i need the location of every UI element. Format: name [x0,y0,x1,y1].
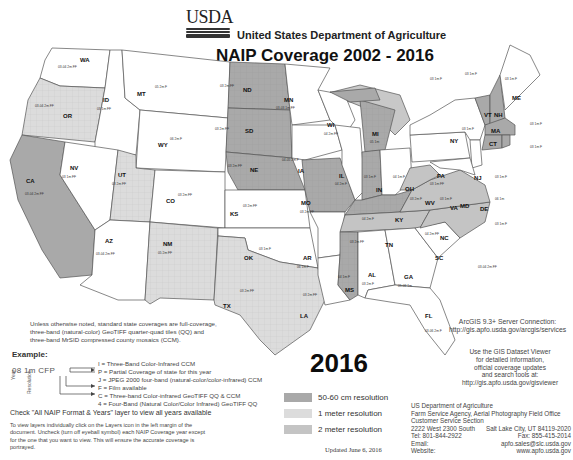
label-or: OR [63,113,73,119]
label-nc: NC [440,235,449,241]
label-ar: AR [303,255,312,261]
note-id: 03 1m FF [97,107,111,111]
label-ia: IA [298,168,305,174]
label-mt: MT [137,91,146,97]
state-ks [225,190,310,228]
note-md: 03 1m F [495,222,507,226]
note-or: 03-04 2m FF [35,104,54,108]
contact-tel: Tel: 801-844-2922 [411,432,462,440]
contact-email[interactable]: apfo.sales@slc.usda.gov [501,440,571,448]
label-nj: NJ [474,175,482,181]
contact-info: US Department of Agriculture Farm Servic… [411,402,571,455]
note-tx: 03 2m FF [240,289,254,293]
label-wv: WV [425,200,435,206]
contact-org: US Department of Agriculture [411,402,571,410]
example-arrows-icon [40,362,100,408]
note-sd: 03 2m FF [215,127,229,131]
standard-coverage-note: Unless otherwise noted, standard state c… [30,320,220,344]
note-mn: 03-03 1m FF [276,106,295,110]
note-ny: 03 1m F [462,127,474,131]
note-pa: 03 1m FF [430,182,444,186]
note-mo: 03 2m FF [300,210,314,214]
note-in: 03 1m F [364,175,376,179]
note-il: 04 2m F [335,182,347,186]
label-id: ID [103,97,110,103]
label-ca: CA [26,178,35,184]
contact-email-label: Email: [411,440,429,448]
label-sc: SC [435,255,444,261]
label-va: VA [450,205,459,211]
note-ut: 03 2m FF [112,182,126,186]
note-sc: 03-04 2m FF [478,265,497,269]
note-ga: 05-06 1m [398,284,412,288]
note-nv: 03 1m FF [62,175,76,179]
label-md: MD [460,203,470,209]
contact-address: 2222 West 2300 South [411,425,475,433]
state-pa [410,132,470,162]
label-de: DE [480,206,488,212]
label-mo: MO [301,200,311,206]
arcgis-url[interactable]: http://gis.apfo.usda.gov/arcgis/services [440,326,573,334]
note-mi: 05 1m [370,140,379,144]
note-oh: 04 1m F [393,175,405,179]
label-tx: TX [223,303,231,309]
note-tn: 03 2m FF [350,240,364,244]
note-wy: 06 2m F [170,137,182,141]
legend-label: 1 meter resolution [318,409,382,418]
note-mt: 05 2m F [155,85,167,89]
contact-website[interactable]: www.apfo.usda.gov [516,447,571,455]
note-ia: 04-05 2m F [282,158,299,162]
label-ne: NE [250,167,258,173]
label-oh: OH [405,186,414,192]
label-wy: WY [158,142,168,148]
arcgis-label: ArcGIS 9.3+ Server Connection: [440,318,573,326]
label-ok: OK [244,255,254,261]
label-nm: NM [163,241,172,247]
label-wa: WA [80,57,90,63]
example-line-f: F = Film available [98,384,147,391]
viewer-url[interactable]: http://gis.apfo.usda.gov/gisviewer [445,379,573,387]
contact-section: Customer Service Section [411,417,571,425]
example-title: Example: [12,350,48,359]
note-nc: 04 2m FF [425,232,439,236]
label-vt: VT [484,112,492,118]
state-mt [122,50,230,118]
legend-label: 50-60 cm resolution [318,393,388,402]
viewer-line: official coverage updates [445,364,573,372]
legend-swatch-2m [284,425,312,434]
label-mn: MN [284,97,293,103]
label-ms: MS [345,287,354,293]
state-nd [228,62,290,110]
label-az: AZ [105,238,113,244]
label-ks: KS [230,211,238,217]
legend-item-50-60cm: 50-60 cm resolution [284,390,424,405]
state-ri [502,135,510,148]
contact-city: Salt Lake City, UT 84119-2020 [486,425,571,433]
label-in: IN [376,187,382,193]
label-ny: NY [450,138,458,144]
note-ms: 04 1m F [338,275,350,279]
viewer-line: and search tools at: [445,371,573,379]
state-ia [292,125,342,160]
note-vt: 03 1m F [430,77,442,81]
coverage-year: 2016 [310,348,368,379]
label-pa: PA [437,173,446,179]
contact-agency: Farm Service Agency, Aerial Photography … [411,410,571,418]
label-il: IL [339,173,345,179]
label-nh: NH [494,112,503,118]
legend-item-1m: 1 meter resolution [284,406,424,421]
example-legend: 08 1m CFP Year Resolution I = Three-Band… [10,360,270,408]
example-axis-year: Year [10,370,16,380]
note-nm: 05 2m FF [158,251,172,255]
label-nd: ND [243,87,252,93]
note-ca: 03-04 2m FF [25,192,44,196]
note-ne: 03 2m FF [228,164,242,168]
note-va: 03 1m F [440,197,452,201]
label-nv: NV [70,165,78,171]
note-de: 06 1m [495,197,504,201]
label-fl: FL [425,313,433,319]
note-ky: 04 2m F [362,217,374,221]
updated-date: Updated June 6, 2016 [325,446,382,453]
contact-fax: Fax: 855-415-2014 [518,432,571,440]
note-az: 03-04 2m FF [96,252,115,256]
